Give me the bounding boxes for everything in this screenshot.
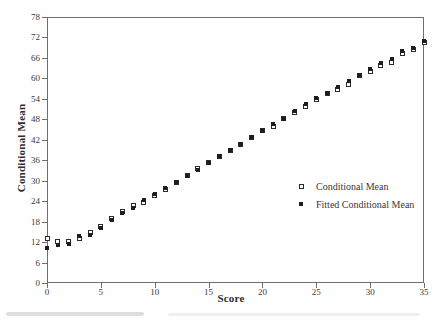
data-point-marker: [239, 142, 243, 146]
y-tick-label: 6: [14, 258, 40, 268]
data-point-marker: [389, 60, 394, 65]
x-tick-label: 5: [88, 287, 114, 297]
scan-artifact: [168, 313, 420, 316]
y-tick-label: 24: [14, 196, 40, 206]
data-point-marker: [153, 192, 157, 196]
scan-artifact: [6, 312, 144, 316]
x-tick-label: 10: [142, 287, 168, 297]
data-point-marker: [142, 198, 146, 202]
data-point-marker: [45, 246, 49, 250]
legend-label: Fitted Conditional Mean: [316, 199, 414, 210]
y-tick-label: 18: [14, 217, 40, 227]
data-point-marker: [336, 85, 340, 89]
y-tick-mark: [42, 99, 47, 100]
y-tick-label: 78: [14, 12, 40, 22]
y-tick-mark: [42, 140, 47, 141]
x-axis-title: Score: [217, 292, 244, 304]
plot-area: [47, 17, 424, 283]
y-tick-mark: [42, 17, 47, 18]
data-point-marker: [357, 73, 361, 77]
y-tick-mark: [42, 119, 47, 120]
y-tick-mark: [42, 37, 47, 38]
data-point-marker: [422, 39, 426, 43]
x-tick-label: 25: [303, 287, 329, 297]
legend-marker-box: [298, 184, 304, 189]
data-point-marker: [347, 79, 351, 83]
data-point-marker: [325, 91, 329, 95]
y-tick-label: 12: [14, 237, 40, 247]
data-point-marker: [293, 109, 297, 113]
data-point-marker: [379, 61, 383, 65]
data-point-marker: [163, 186, 167, 190]
data-point-marker: [196, 168, 200, 172]
x-tick-label: 35: [411, 287, 437, 297]
y-tick-mark: [42, 263, 47, 264]
legend-item-conditional-mean: Conditional Mean: [298, 177, 414, 195]
y-tick-mark: [42, 78, 47, 79]
filled-square-icon: [299, 202, 303, 206]
data-point-marker: [110, 218, 114, 222]
y-tick-mark: [42, 181, 47, 182]
y-tick-mark: [42, 222, 47, 223]
data-point-marker: [250, 135, 254, 139]
y-tick-mark: [42, 242, 47, 243]
data-point-marker: [99, 226, 103, 230]
data-point-marker: [207, 161, 211, 165]
data-point-marker: [411, 46, 415, 50]
data-point-marker: [282, 117, 286, 121]
y-tick-label: 66: [14, 53, 40, 63]
data-point-marker: [131, 206, 135, 210]
data-point-marker: [217, 154, 221, 158]
x-tick-label: 20: [249, 287, 275, 297]
legend-label: Conditional Mean: [316, 181, 389, 192]
y-tick-label: 54: [14, 94, 40, 104]
y-tick-mark: [42, 201, 47, 202]
x-tick-label: 0: [34, 287, 60, 297]
data-point-marker: [260, 129, 264, 133]
data-point-marker: [368, 67, 372, 71]
y-tick-mark: [42, 58, 47, 59]
data-point-marker: [120, 211, 124, 215]
data-point-marker: [56, 243, 60, 247]
data-point-marker: [45, 236, 50, 241]
conditional-mean-figure: 0612182430364248546066727805101520253035…: [0, 0, 444, 325]
data-point-marker: [304, 102, 308, 106]
legend-item-fitted-conditional-mean: Fitted Conditional Mean: [298, 195, 414, 213]
legend-marker-box: [298, 202, 304, 206]
y-tick-mark: [42, 160, 47, 161]
data-point-marker: [88, 233, 92, 237]
open-square-icon: [299, 184, 304, 189]
y-tick-label: 72: [14, 32, 40, 42]
data-point-marker: [400, 49, 404, 53]
y-axis-title: Conditional Mean: [15, 104, 27, 192]
legend: Conditional Mean Fitted Conditional Mean: [298, 177, 414, 213]
x-tick-label: 30: [357, 287, 383, 297]
data-point-marker: [67, 242, 71, 246]
data-point-marker: [228, 148, 232, 152]
data-point-marker: [271, 122, 275, 126]
data-point-marker: [390, 57, 394, 61]
data-point-marker: [314, 96, 318, 100]
y-tick-label: 60: [14, 73, 40, 83]
data-point-marker: [77, 234, 81, 238]
data-point-marker: [174, 180, 178, 184]
data-point-marker: [185, 174, 189, 178]
